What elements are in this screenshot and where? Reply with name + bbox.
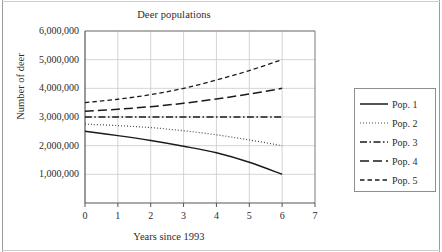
legend-item-label: Pop. 2 [392, 118, 418, 129]
y-tick-label: 1,000,000 [9, 168, 79, 179]
page-border-top [2, 1, 440, 2]
x-tick-label: 4 [206, 210, 226, 221]
legend-item[interactable]: Pop. 4 [355, 151, 437, 171]
x-tick-label: 1 [108, 210, 128, 221]
legend-item[interactable]: Pop. 2 [355, 113, 437, 133]
x-tick-label: 5 [239, 210, 259, 221]
x-tick-label: 6 [272, 210, 292, 221]
x-tick-label: 0 [75, 210, 95, 221]
chart-legend: Pop. 1Pop. 2Pop. 3Pop. 4Pop. 5 [354, 88, 436, 192]
legend-line-swatch [359, 97, 389, 111]
y-tick-label: 2,000,000 [9, 140, 79, 151]
legend-line-swatch [359, 135, 389, 149]
y-tick-label: 3,000,000 [9, 111, 79, 122]
y-tick-label: 4,000,000 [9, 82, 79, 93]
page-border-left [2, 0, 3, 252]
x-tick-label: 2 [141, 210, 161, 221]
chart-figure: Deer populations Number of deer Years si… [4, 3, 344, 249]
legend-item[interactable]: Pop. 1 [355, 94, 437, 114]
legend-item[interactable]: Pop. 5 [355, 170, 437, 190]
page-border-bottom [2, 250, 440, 251]
page-border-right [439, 0, 440, 252]
legend-line-swatch [359, 116, 389, 130]
legend-item-label: Pop. 1 [392, 99, 418, 110]
y-tick-label: 5,000,000 [9, 54, 79, 65]
x-tick-label: 3 [174, 210, 194, 221]
chart-page: Deer populations Number of deer Years si… [0, 0, 442, 252]
legend-item-label: Pop. 5 [392, 175, 418, 186]
y-tick-label: 6,000,000 [9, 25, 79, 36]
legend-line-swatch [359, 173, 389, 187]
legend-line-swatch [359, 154, 389, 168]
axis-ticks [85, 203, 315, 207]
legend-item-label: Pop. 3 [392, 137, 418, 148]
legend-item[interactable]: Pop. 3 [355, 132, 437, 152]
x-tick-label: 7 [305, 210, 325, 221]
legend-item-label: Pop. 4 [392, 156, 418, 167]
